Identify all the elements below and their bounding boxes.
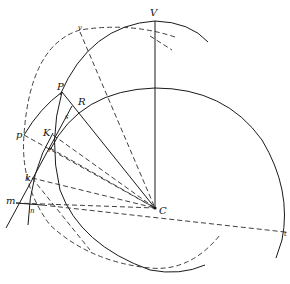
label-P: P [56,81,64,92]
outer-arc [60,21,208,95]
label-p: p [16,129,23,140]
tangent-line [6,106,72,228]
label-R: R [77,96,86,107]
label-K: K [42,127,51,138]
label-v: v [78,24,82,32]
dash-v-extension [150,36,172,50]
label-n: n [30,207,35,215]
geometric-diagram: V v P R p K s r k m n C t [0,0,290,284]
dash-K-C [53,135,155,208]
label-m: m [6,195,15,206]
label-t: t [284,230,287,238]
dashed-circle-arc [24,27,220,268]
label-C: C [159,205,167,216]
dash-v-C [80,32,155,208]
label-V: V [150,7,159,18]
inner-circle-arc [50,88,285,258]
dash-k-lower [32,178,90,250]
dash-k-C [32,178,155,208]
point-C [153,206,156,209]
label-k: k [25,172,31,183]
line-P-C [62,92,155,208]
dash-m-C [16,203,155,208]
label-s: s [65,113,69,121]
